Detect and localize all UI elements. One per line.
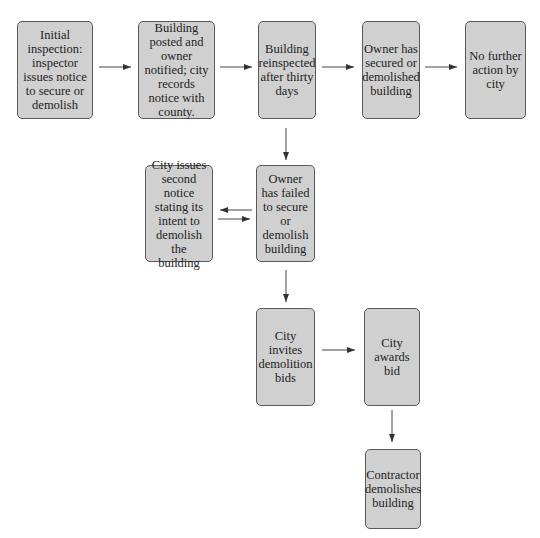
node-initial-inspection: Initial inspection: inspector issues not… — [17, 21, 93, 119]
node-label: Initial inspection: inspector issues not… — [21, 28, 89, 112]
node-label: Owner has failed to secure or demolish b… — [260, 172, 311, 256]
node-no-further-action: No further action by city — [465, 21, 526, 119]
node-label: City issues second notice stating its in… — [149, 158, 209, 270]
node-awards-bid: City awards bid — [364, 308, 420, 406]
node-building-posted: Building posted and owner notified; city… — [138, 21, 215, 119]
node-label: City awards bid — [368, 336, 416, 378]
node-label: Building posted and owner notified; city… — [142, 21, 211, 119]
node-label: Contractor demolishes building — [365, 468, 421, 510]
node-invites-bids: City invites demolition bids — [256, 308, 315, 406]
node-contractor-demolishes: Contractor demolishes building — [365, 449, 421, 529]
node-label: Building reinspected after thirty days — [259, 42, 316, 98]
node-owner-failed: Owner has failed to secure or demolish b… — [256, 165, 315, 262]
node-label: Owner has secured or demolished building — [362, 42, 420, 98]
node-building-reinspected: Building reinspected after thirty days — [258, 21, 316, 119]
node-owner-secured: Owner has secured or demolished building — [362, 21, 420, 119]
node-label: City invites demolition bids — [258, 329, 312, 385]
node-second-notice: City issues second notice stating its in… — [145, 165, 213, 262]
node-label: No further action by city — [469, 49, 522, 91]
